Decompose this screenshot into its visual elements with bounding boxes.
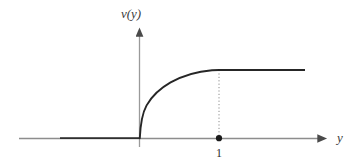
kink-point-marker bbox=[216, 135, 222, 141]
function-plot-figure: v(y) y 1 bbox=[0, 0, 361, 167]
x-axis-label: y bbox=[337, 131, 343, 144]
x-tick-label-1: 1 bbox=[216, 147, 222, 159]
value-function-concave-branch bbox=[140, 70, 219, 138]
plot-canvas bbox=[0, 0, 361, 167]
y-axis-label: v(y) bbox=[121, 7, 141, 20]
